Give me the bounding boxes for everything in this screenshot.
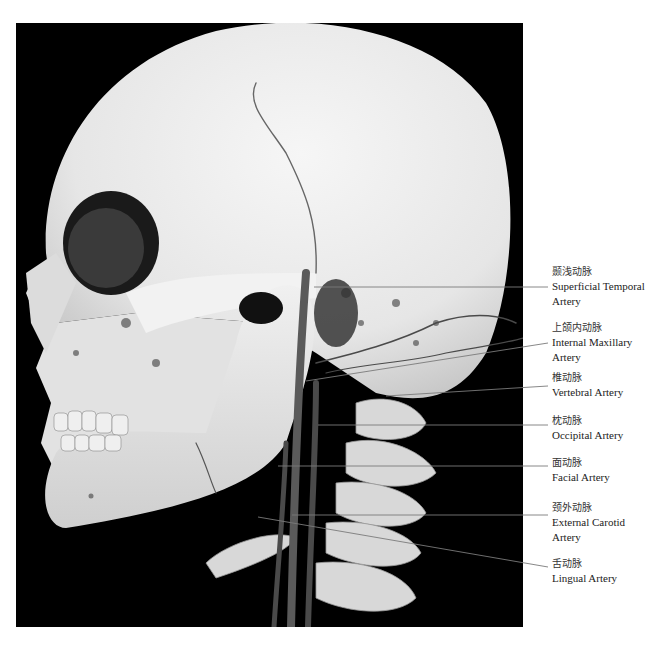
label-zh: 颈外动脉 bbox=[552, 500, 625, 515]
label-en: Occipital Artery bbox=[552, 428, 623, 443]
label-en: Artery bbox=[552, 350, 632, 365]
label-zh: 舌动脉 bbox=[552, 556, 617, 571]
label-lingual: 舌动脉 Lingual Artery bbox=[552, 556, 617, 586]
anatomy-figure bbox=[16, 23, 523, 627]
label-en: Internal Maxillary bbox=[552, 335, 632, 350]
label-superficial-temporal: 颞浅动脉 Superficial Temporal Artery bbox=[552, 264, 645, 309]
label-internal-maxillary: 上颌内动脉 Internal Maxillary Artery bbox=[552, 320, 632, 365]
label-zh: 颞浅动脉 bbox=[552, 264, 645, 279]
label-facial: 面动脉 Facial Artery bbox=[552, 455, 610, 485]
label-zh: 枕动脉 bbox=[552, 413, 623, 428]
skull-illustration bbox=[16, 23, 523, 627]
label-zh: 椎动脉 bbox=[552, 370, 623, 385]
label-zh: 面动脉 bbox=[552, 455, 610, 470]
label-en: Facial Artery bbox=[552, 470, 610, 485]
label-en: Artery bbox=[552, 530, 625, 545]
label-vertebral: 椎动脉 Vertebral Artery bbox=[552, 370, 623, 400]
label-en: External Carotid bbox=[552, 515, 625, 530]
teeth bbox=[54, 411, 128, 451]
label-en: Superficial Temporal bbox=[552, 279, 645, 294]
label-external-carotid: 颈外动脉 External Carotid Artery bbox=[552, 500, 625, 545]
label-en: Lingual Artery bbox=[552, 571, 617, 586]
label-zh: 上颌内动脉 bbox=[552, 320, 632, 335]
label-occipital: 枕动脉 Occipital Artery bbox=[552, 413, 623, 443]
label-en: Vertebral Artery bbox=[552, 385, 623, 400]
label-en: Artery bbox=[552, 294, 645, 309]
